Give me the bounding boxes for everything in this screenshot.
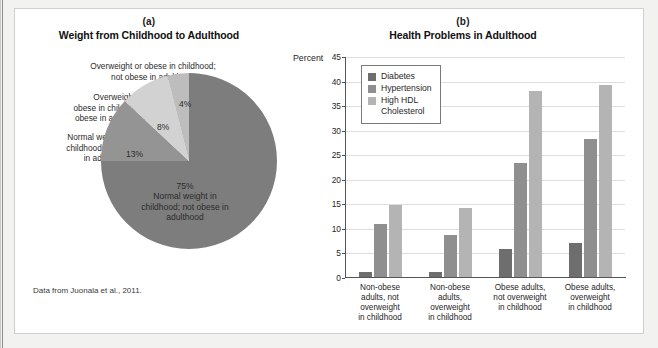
- panel-b-bar-chart: (b) Health Problems in Adulthood Percent…: [283, 9, 643, 333]
- scan-edge-line: [2, 0, 3, 348]
- bar-diabetes-group-3: [499, 249, 512, 278]
- scan-edge-line-outer: [0, 0, 1, 348]
- y-tick-label: 5: [336, 248, 341, 258]
- legend-label: High HDL Cholesterol: [381, 95, 424, 117]
- pie-label-75pct: 75%: [155, 181, 215, 192]
- figure-root: (a) Weight from Childhood to Adulthood O…: [0, 0, 658, 348]
- pie-chart-area: Overweight or obese in childhood; not ob…: [15, 9, 283, 333]
- y-tick-label: 20: [332, 175, 341, 185]
- y-tick-label: 15: [332, 199, 341, 209]
- y-axis-line: [345, 57, 346, 278]
- x-axis-line: [345, 277, 626, 278]
- legend-item-high-hdl-cholesterol: High HDL Cholesterol: [368, 95, 432, 117]
- figure-card: (a) Weight from Childhood to Adulthood O…: [14, 8, 644, 334]
- y-tick-label: 0: [336, 273, 341, 283]
- bar-diabetes-group-4: [569, 243, 582, 278]
- bar-hypertension-group-1: [374, 224, 387, 278]
- source-note: Data from Juonala et al., 2011.: [33, 286, 142, 295]
- legend-swatch-icon: [368, 73, 376, 81]
- bar-hypertension-group-3: [514, 163, 527, 278]
- y-tick-label: 30: [332, 126, 341, 136]
- x-category-label-1: Non-obese adults, not overweight in chil…: [344, 283, 416, 323]
- bar-high-hdl-cholesterol-group-4: [599, 85, 612, 278]
- legend-label: Diabetes: [381, 71, 415, 82]
- y-axis-title: Percent: [293, 53, 323, 63]
- bar-hypertension-group-2: [444, 235, 457, 278]
- panel-b-letter: (b): [283, 16, 643, 27]
- chart-legend: DiabetesHypertensionHigh HDL Cholesterol: [361, 65, 441, 124]
- pie-label-4pct: 4%: [179, 99, 191, 110]
- y-tick-label: 45: [332, 52, 341, 62]
- panel-b-title: Health Problems in Adulthood: [283, 29, 643, 41]
- gridline: [345, 131, 625, 132]
- panel-a-pie-chart: (a) Weight from Childhood to Adulthood O…: [15, 9, 283, 333]
- x-category-label-4: Obese adults, overweight in childhood: [554, 283, 626, 313]
- legend-swatch-icon: [368, 97, 376, 105]
- bar-high-hdl-cholesterol-group-3: [529, 91, 542, 278]
- legend-swatch-icon: [368, 85, 376, 93]
- gridline: [345, 57, 625, 58]
- y-tick-label: 40: [332, 77, 341, 87]
- x-category-label-2: Non-obese adults, overweight in childhoo…: [414, 283, 486, 323]
- y-tick-label: 10: [332, 224, 341, 234]
- bar-high-hdl-cholesterol-group-1: [389, 205, 402, 278]
- pie-svg: [99, 71, 279, 251]
- y-tick-label: 35: [332, 101, 341, 111]
- pie-label-13pct: 13%: [126, 149, 143, 160]
- legend-label: Hypertension: [381, 83, 432, 94]
- legend-item-diabetes: Diabetes: [368, 71, 432, 82]
- legend-item-hypertension: Hypertension: [368, 83, 432, 94]
- pie-label-75pct-description: Normal weight in childhood; not obese in…: [133, 191, 237, 223]
- bar-plot-area: 051015202530354045 DiabetesHypertensionH…: [345, 57, 625, 278]
- y-tick-label: 25: [332, 150, 341, 160]
- pie-label-8pct: 8%: [157, 122, 169, 133]
- bar-high-hdl-cholesterol-group-2: [459, 208, 472, 278]
- bar-hypertension-group-4: [584, 139, 597, 278]
- x-category-label-3: Obese adults, not overweight in childhoo…: [484, 283, 556, 313]
